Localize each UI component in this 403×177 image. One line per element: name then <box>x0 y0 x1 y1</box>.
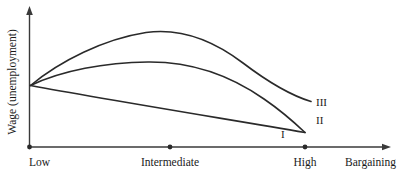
x-tick-label-low: Low <box>29 156 51 168</box>
curve-label-i: I <box>281 128 285 140</box>
x-tick-label-intermediate: Intermediate <box>141 156 199 168</box>
curve-label-iii: III <box>316 96 327 108</box>
chart-figure: III II I Low Intermediate High Bargainin… <box>0 0 403 177</box>
curve-iii-path <box>31 31 312 101</box>
y-axis-title: Wage (unemployment) <box>6 29 19 135</box>
curve-i-path <box>31 86 306 133</box>
x-axis-title: Bargaining <box>345 156 396 169</box>
x-tick-dot-low <box>27 145 32 150</box>
chart-svg: III II I Low Intermediate High Bargainin… <box>0 0 403 177</box>
x-axis-arrow-icon <box>382 144 391 150</box>
x-tick-dot-high <box>303 145 308 150</box>
y-axis-arrow-icon <box>26 6 33 15</box>
curve-label-ii: II <box>316 114 324 126</box>
curve-ii-path <box>31 62 306 133</box>
x-tick-label-high: High <box>294 156 317 169</box>
x-tick-dot-intermediate <box>168 145 173 150</box>
